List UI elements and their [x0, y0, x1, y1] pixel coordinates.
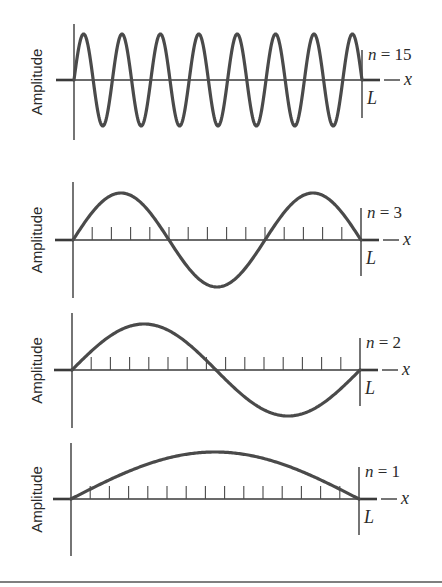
- y-axis-label: Amplitude: [28, 49, 45, 116]
- y-axis-label: Amplitude: [28, 466, 45, 533]
- standing-waves-figure: Amplituden = 15xLAmplituden = 3xLAmplitu…: [0, 0, 442, 587]
- panel-n15: Amplituden = 15xL: [28, 24, 412, 140]
- mode-label: n = 1: [365, 462, 400, 481]
- panels: Amplituden = 15xLAmplituden = 3xLAmplitu…: [28, 24, 412, 556]
- length-label: L: [363, 507, 374, 527]
- mode-label: n = 3: [367, 203, 402, 222]
- x-axis-label: x: [403, 69, 412, 89]
- y-axis-label: Amplitude: [28, 207, 45, 274]
- panel-n1: Amplituden = 1xL: [28, 443, 409, 556]
- standing-wave-curve: [71, 452, 359, 499]
- panel-n3: Amplituden = 3xL: [28, 182, 411, 298]
- y-axis-label: Amplitude: [28, 337, 45, 404]
- x-axis-label: x: [401, 359, 410, 379]
- panel-n2: Amplituden = 2xL: [28, 313, 410, 428]
- x-axis-label: x: [402, 229, 411, 249]
- x-axis-label: x: [400, 488, 409, 508]
- length-label: L: [364, 378, 375, 398]
- mode-label: n = 15: [368, 45, 412, 64]
- length-label: L: [365, 248, 376, 268]
- mode-label: n = 2: [366, 333, 401, 352]
- length-label: L: [366, 88, 377, 108]
